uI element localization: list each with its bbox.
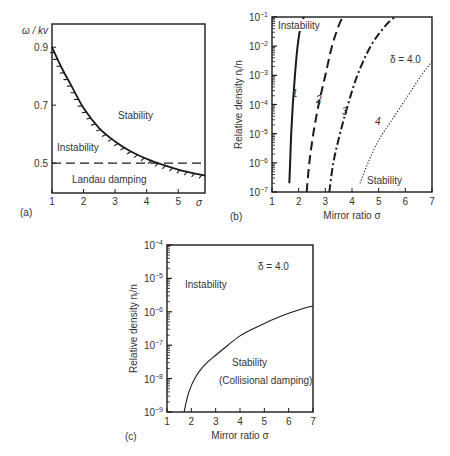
- region-instability-label: Instability: [185, 279, 227, 290]
- x-tick-label: 1: [269, 196, 275, 207]
- hatch-mark: [141, 158, 144, 161]
- y-tick-label: 10−5: [144, 272, 163, 284]
- hatch-mark: [82, 112, 86, 113]
- curve-1: [289, 17, 304, 183]
- curve-2-label: 2: [315, 94, 322, 105]
- region-stability-label: Stability: [232, 357, 267, 368]
- y-tick-label: 0.7: [34, 100, 48, 111]
- hatch-mark: [91, 124, 95, 125]
- y-tick-label: 10−8: [144, 373, 163, 385]
- x-tick-label: 2: [189, 416, 195, 427]
- collisional-damping-label: (Collisional damping): [219, 375, 312, 386]
- y-tick-label: 10−7: [249, 186, 268, 198]
- y-tick-label: 10−5: [249, 128, 268, 140]
- curve-4-label: 4: [375, 116, 381, 127]
- x-tick-label: 6: [286, 416, 292, 427]
- x-tick-label: 4: [237, 416, 243, 427]
- hatch-mark: [114, 144, 118, 146]
- x-tick-label: 6: [403, 196, 409, 207]
- curve-1-label: 1: [292, 88, 298, 99]
- x-axis-label: Mirror ratio σ: [323, 210, 381, 221]
- y-tick-label: 10−9: [144, 406, 163, 418]
- panel-a: 12345σ0.90.70.5ω / kvStabilityInstabilit…: [20, 24, 205, 218]
- x-tick-label: 1: [164, 416, 170, 427]
- y-tick-label: 10−2: [249, 40, 268, 52]
- panel-label-b: (b): [230, 211, 242, 222]
- hatch-mark: [134, 155, 137, 158]
- y-tick-label: 0.5: [34, 158, 48, 169]
- panel-c: 1234567Mirror ratio σ10−410−510−610−710−…: [125, 239, 316, 442]
- y-tick-label: 10−6: [144, 306, 163, 318]
- x-tick-label: 7: [310, 416, 316, 427]
- y-axis-label: Relative density ni/n: [233, 60, 245, 149]
- x-tick-label: 5: [175, 196, 181, 207]
- hatch-mark: [108, 139, 112, 141]
- x-tick-label: 2: [296, 196, 302, 207]
- x-axis-label: σ: [196, 197, 203, 208]
- x-tick-label: 4: [144, 196, 150, 207]
- y-tick-label: 10−1: [249, 11, 268, 23]
- hatch-mark: [121, 148, 125, 150]
- y-axis-label: Relative density ni/n: [128, 284, 140, 373]
- delta-label: δ = 4.0: [258, 261, 289, 272]
- y-axis-label: ω / kv: [22, 25, 49, 36]
- y-tick-label: 10−4: [144, 239, 163, 251]
- delta-label: δ = 4.0: [390, 54, 421, 65]
- panel-label-a: (a): [20, 207, 32, 218]
- plot-frame: [272, 17, 432, 192]
- region-stability-label: Stability: [367, 175, 402, 186]
- hatch-mark: [170, 168, 173, 171]
- plot-frame: [52, 24, 205, 193]
- panel-b: 1234567Mirror ratio σ10−110−210−310−410−…: [230, 11, 435, 222]
- hatch-mark: [127, 151, 131, 154]
- plot-frame: [167, 245, 313, 412]
- y-tick-label: 0.9: [34, 42, 48, 53]
- x-tick-label: 3: [213, 416, 219, 427]
- y-tick-label: 10−4: [249, 99, 268, 111]
- hatch-mark: [102, 135, 106, 137]
- panel-label-c: (c): [125, 431, 137, 442]
- region-instability-label: Instability: [278, 20, 320, 31]
- x-tick-label: 5: [262, 416, 268, 427]
- y-tick-label: 10−3: [249, 69, 268, 81]
- x-tick-label: 4: [349, 196, 355, 207]
- x-tick-label: 5: [376, 196, 382, 207]
- hatch-mark: [162, 166, 165, 169]
- region-stability-label: Stability: [118, 110, 153, 121]
- curve-3: [329, 17, 394, 192]
- region-instability-label: Instability: [57, 142, 99, 153]
- landau-damping-label: Landau damping: [72, 174, 147, 185]
- curve-3-label: 3: [342, 106, 348, 117]
- x-tick-label: 1: [49, 196, 55, 207]
- hatch-mark: [96, 130, 100, 131]
- x-tick-label: 3: [323, 196, 329, 207]
- figure: 12345σ0.90.70.5ω / kvStabilityInstabilit…: [0, 0, 450, 456]
- hatch-mark: [86, 118, 90, 119]
- y-tick-label: 10−7: [144, 339, 163, 351]
- x-tick-label: 7: [429, 196, 435, 207]
- y-tick-label: 10−6: [249, 157, 268, 169]
- curve-2: [307, 17, 343, 192]
- curve-4: [360, 61, 432, 183]
- x-tick-label: 3: [112, 196, 118, 207]
- x-axis-label: Mirror ratio σ: [211, 430, 269, 441]
- x-tick-label: 2: [81, 196, 87, 207]
